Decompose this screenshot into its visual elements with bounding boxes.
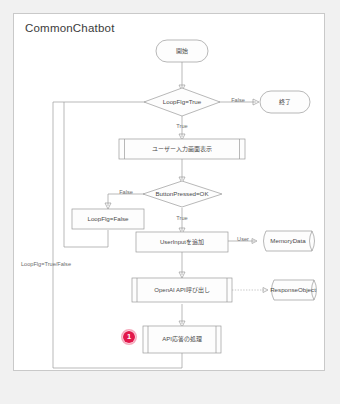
node-button-decision[interactable]: ButtonPressed=OK — [143, 181, 222, 207]
node-memory-data-label: MemoryData — [270, 237, 306, 244]
annotation-badge-1-number: 1 — [127, 332, 131, 341]
edge-label-loop-false: False — [231, 97, 245, 103]
node-start[interactable]: 開始 — [156, 40, 208, 62]
node-add-userinput[interactable]: UserInputを追加 — [136, 232, 228, 252]
node-api-response-handle-label: API応答の処理 — [162, 335, 202, 343]
node-api-response-handle[interactable]: API応答の処理 — [143, 326, 221, 353]
edge-label-return-path: LoopFlg=True/False — [21, 261, 71, 267]
node-loopflg-false[interactable]: LoopFlg=False — [72, 209, 144, 229]
edge-button-false — [108, 194, 145, 206]
edge-label-button-true: True — [176, 215, 187, 221]
node-memory-data[interactable]: MemoryData — [264, 231, 315, 251]
node-show-input-screen[interactable]: ユーザー入力画面表示 — [119, 139, 245, 159]
edge-label-button-false: False — [119, 189, 133, 195]
node-button-decision-label: ButtonPressed=OK — [155, 190, 209, 197]
node-show-input-screen-label: ユーザー入力画面表示 — [152, 145, 212, 153]
node-response-object[interactable]: ResponseObject — [270, 280, 316, 300]
node-loop-decision-label: LoopFlg=True — [163, 98, 202, 105]
node-loop-decision[interactable]: LoopFlg=True — [144, 88, 220, 116]
edge-label-user-role: User — [237, 236, 249, 242]
node-add-userinput-label: UserInputを追加 — [160, 238, 204, 246]
diagram-canvas: CommonChatbot — [0, 0, 340, 404]
node-end[interactable]: 終了 — [260, 91, 310, 113]
flowchart-svg: 開始 終了 LoopFlg=True ユーザー入力画面表示 ButtonPres… — [0, 0, 340, 404]
node-response-object-label: ResponseObject — [270, 286, 316, 293]
node-openai-call[interactable]: OpenAI API呼び出し — [132, 278, 232, 302]
node-end-label: 終了 — [279, 98, 291, 106]
edge-label-loop-true: True — [176, 123, 187, 129]
node-loopflg-false-label: LoopFlg=False — [87, 215, 129, 222]
annotation-badge-1[interactable]: 1 — [122, 330, 136, 344]
node-openai-call-label: OpenAI API呼び出し — [154, 286, 209, 294]
node-start-label: 開始 — [176, 47, 188, 55]
